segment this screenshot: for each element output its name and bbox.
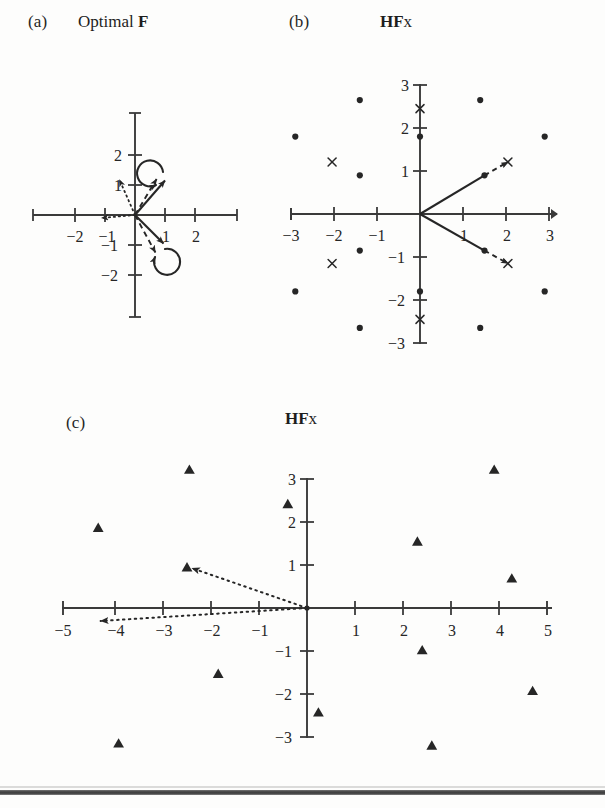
tick-y-3: 3 — [288, 471, 296, 488]
data-point — [506, 573, 517, 582]
panel-c-plot: −5 −4 −3 −2 −1 1 2 3 4 5 −3 −2 −1 1 2 3 — [0, 435, 605, 795]
tick-x--2: −2 — [203, 622, 220, 639]
page-scan-artifact-upper — [0, 786, 605, 788]
tick-y-2: 2 — [288, 514, 296, 531]
page-scan-artifact — [0, 790, 605, 795]
tick-y--1: −1 — [275, 643, 292, 660]
data-point — [417, 288, 423, 294]
data-point — [313, 707, 324, 716]
data-point — [357, 325, 363, 331]
panel-c-title-bold: HF — [285, 409, 309, 428]
tick-x--5: −5 — [54, 622, 71, 639]
tick-y-1: 1 — [401, 163, 409, 180]
dashed-extension-upper — [485, 162, 508, 175]
data-point — [542, 288, 548, 294]
tick-y--2: −2 — [388, 292, 405, 309]
data-point — [282, 499, 293, 508]
arc-upper — [137, 160, 163, 186]
tick-x-5: 5 — [544, 622, 552, 639]
panel-b-label: (b) — [289, 12, 309, 32]
data-point — [357, 172, 363, 178]
panel-c-received-points — [93, 464, 538, 749]
data-point — [426, 740, 437, 749]
data-point — [357, 248, 363, 254]
tick-x-1: 1 — [352, 622, 360, 639]
panel-c-dotted-vectors — [101, 568, 307, 621]
panel-b: (b) HFx — [255, 0, 605, 390]
solid-vector-upper — [420, 175, 485, 214]
tick-x--1: −1 — [251, 622, 268, 639]
data-point — [477, 97, 483, 103]
panel-a-label: (a) — [28, 12, 47, 32]
tick-x--3: −3 — [155, 622, 172, 639]
tick-y-3: 3 — [401, 77, 409, 94]
tick-y--2: −2 — [101, 267, 118, 284]
arc-lower — [154, 249, 180, 275]
data-point — [184, 464, 195, 473]
panel-c: (c) HFx — [0, 395, 605, 790]
dashed-extension-lower — [485, 251, 508, 264]
tick-x--4: −4 — [107, 622, 124, 639]
panel-b-plot: −3 −2 −1 1 2 3 −3 −2 −1 1 2 3 — [255, 42, 605, 382]
data-point — [477, 325, 483, 331]
data-point — [417, 645, 428, 654]
panel-c-title: HFx — [285, 409, 317, 429]
tick-y--2: −2 — [275, 686, 292, 703]
tick-x-3: 3 — [546, 227, 554, 244]
tick-x--1: −1 — [368, 227, 385, 244]
panel-c-title-plain: x — [309, 409, 318, 428]
tick-y-2: 2 — [114, 147, 122, 164]
cross-marker — [328, 158, 336, 166]
data-point — [489, 464, 500, 473]
data-point — [527, 686, 538, 695]
data-point — [113, 738, 124, 747]
data-point — [292, 134, 298, 140]
tick-y-2: 2 — [401, 120, 409, 137]
data-point — [412, 536, 423, 545]
tick-x--3: −3 — [282, 227, 299, 244]
tick-y-1: 1 — [114, 177, 122, 194]
tick-x--2: −2 — [325, 227, 342, 244]
tick-x-2: 2 — [192, 228, 200, 245]
tick-y-1: 1 — [288, 557, 296, 574]
data-point — [93, 523, 104, 532]
tick-x-2: 2 — [400, 622, 408, 639]
panel-a-title-bold: F — [138, 12, 148, 31]
data-point — [542, 134, 548, 140]
panel-b-dashed-extensions — [485, 162, 508, 264]
panel-a-rotation-arcs — [137, 160, 180, 274]
panel-b-axes — [290, 84, 558, 344]
solid-vector-lower — [420, 214, 485, 251]
panel-a-title-plain: Optimal — [78, 12, 138, 31]
solid-arrow-lower — [135, 215, 164, 244]
panel-b-title-bold: HF — [380, 12, 404, 31]
dotted-vector-upper-left — [192, 568, 307, 608]
tick-y--1: −1 — [388, 249, 405, 266]
data-point — [357, 97, 363, 103]
panel-c-label: (c) — [66, 413, 85, 433]
panel-b-title-plain: x — [404, 12, 413, 31]
data-point — [292, 288, 298, 294]
data-point — [182, 562, 193, 571]
cross-marker — [328, 260, 336, 268]
data-point — [213, 669, 224, 678]
panel-a-title: Optimal F — [78, 12, 148, 32]
figure-page: (a) Optimal F — [0, 0, 605, 808]
dotted-vector-left — [101, 608, 307, 621]
tick-y--3: −3 — [388, 335, 405, 352]
panel-b-solid-vectors — [420, 175, 485, 250]
tick-x-2: 2 — [503, 227, 511, 244]
tick-y--3: −3 — [275, 729, 292, 746]
tick-x-4: 4 — [496, 622, 504, 639]
tick-x--2: −2 — [66, 228, 83, 245]
data-point — [417, 134, 423, 140]
panel-b-title: HFx — [380, 12, 412, 32]
tick-y--1: −1 — [101, 237, 118, 254]
tick-x-3: 3 — [448, 622, 456, 639]
